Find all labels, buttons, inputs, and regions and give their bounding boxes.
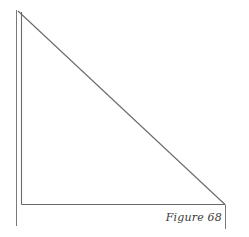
figure-caption: Figure 68 xyxy=(166,211,222,224)
triangle-hypotenuse xyxy=(18,11,225,205)
figure-diagram xyxy=(0,0,249,237)
